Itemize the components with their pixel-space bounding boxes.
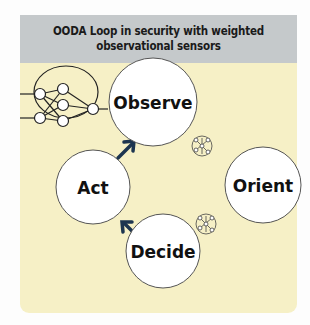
neural-network-icon <box>20 66 108 127</box>
small-network-icon <box>196 214 216 234</box>
node-decide-label: Decide <box>130 242 195 262</box>
node-decide: Decide <box>126 214 200 288</box>
node-observe-label: Observe <box>113 93 192 113</box>
ooda-diagram: Observe Orient Decide Act <box>0 0 310 325</box>
arrow-act-to-observe <box>118 141 134 158</box>
node-act-label: Act <box>77 178 108 198</box>
node-act: Act <box>56 150 130 224</box>
node-orient: Orient <box>225 147 301 223</box>
node-observe: Observe <box>109 58 197 146</box>
node-orient-label: Orient <box>233 176 293 196</box>
small-network-icon <box>192 136 212 156</box>
